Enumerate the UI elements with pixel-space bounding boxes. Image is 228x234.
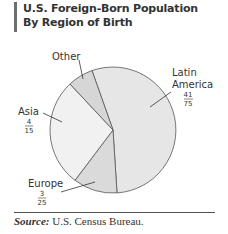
latin-america-numerator: 41 xyxy=(184,91,193,99)
label-asia: Asia xyxy=(18,106,39,117)
source-divider xyxy=(14,212,215,213)
label-latin-america-line1: Latin xyxy=(172,67,197,78)
asia-numerator: 4 xyxy=(27,118,32,126)
europe-denominator: 25 xyxy=(38,199,47,207)
source-text: U.S. Census Bureau. xyxy=(49,215,143,227)
label-other: Other xyxy=(52,51,81,62)
europe-numerator: 3 xyxy=(40,190,44,198)
label-europe: Europe xyxy=(28,178,63,189)
source-note: Source: U.S. Census Bureau. xyxy=(14,215,144,227)
source-label: Source: xyxy=(14,215,49,227)
asia-denominator: 15 xyxy=(25,127,34,135)
label-latin-america-line2: America xyxy=(172,79,213,90)
pie-chart: Other Latin America 41 75 Asia 4 15 Euro… xyxy=(0,0,228,234)
latin-america-denominator: 75 xyxy=(184,100,193,108)
